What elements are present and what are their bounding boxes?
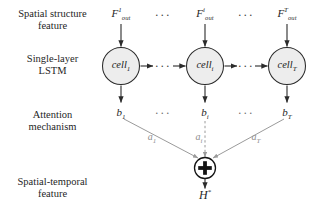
hidden-state-subscript: 1 [122, 113, 126, 121]
output-feature-h-star: H* [199, 188, 211, 202]
stage-label-line2: feature [0, 20, 105, 32]
hidden-state-subscript: T [288, 113, 292, 121]
cell-base: cell [112, 59, 127, 70]
attention-weight-a-1: a1 [148, 131, 157, 145]
ellipsis-top-left: ··· [155, 8, 172, 23]
output-base: H [199, 188, 208, 202]
attention-weight-a-T: aT [252, 131, 261, 145]
ellipsis-top-right: ··· [238, 8, 255, 23]
input-to-cell-arrows [121, 24, 287, 47]
cell-subscript: T [293, 65, 297, 73]
cell-base: cell [277, 59, 292, 70]
cell-base: cell [196, 59, 211, 70]
stage-label-line1: Spatial structure [0, 8, 105, 20]
stage-label-line1: Single-layer [0, 53, 105, 65]
input-feature-subscript: out [288, 14, 297, 21]
attention-weight-a-i: ai [196, 131, 203, 145]
lstm-cell-label-i: celli [196, 59, 213, 73]
stage-label-spatial-temporal-feature: Spatial-temporal feature [0, 176, 105, 201]
stage-label-spatial-structure-feature: Spatial structure feature [0, 8, 105, 33]
output-superscript: * [208, 188, 212, 196]
input-feature-base: F [112, 7, 119, 19]
stage-label-line2: mechanism [0, 121, 105, 133]
input-feature-subscript: out [205, 14, 214, 21]
input-feature-f-out-T: FTout [277, 6, 296, 22]
hidden-state-b-i: bi [201, 106, 208, 121]
sum-node-graphic [195, 158, 216, 179]
stage-label-line1: Spatial-temporal [0, 176, 105, 188]
stage-label-attention-mechanism: Attention mechanism [0, 109, 105, 134]
input-feature-base: F [196, 7, 203, 19]
stage-label-line1: Attention [0, 109, 105, 121]
input-feature-superscript: T [284, 6, 288, 14]
attention-weight-subscript: i [201, 137, 203, 145]
attention-weight-subscript: T [257, 137, 261, 145]
ellipsis-cell-left: ··· [155, 59, 172, 74]
input-feature-base: F [277, 7, 284, 19]
lstm-attention-diagram: Spatial structure feature Single-layer L… [0, 0, 318, 211]
input-feature-subscript: out [122, 14, 131, 21]
hidden-state-b-T: bT [282, 106, 291, 121]
stage-label-single-layer-lstm: Single-layer LSTM [0, 53, 105, 78]
hidden-state-subscript: i [207, 113, 209, 121]
stage-label-line2: feature [0, 188, 105, 200]
lstm-cell-label-T: cellT [277, 59, 296, 73]
ellipsis-hidden-right: ··· [238, 106, 255, 121]
input-feature-superscript: 1 [118, 6, 122, 14]
stage-label-line2: LSTM [0, 65, 105, 77]
input-feature-f-out-i: Fiout [196, 6, 213, 22]
input-feature-superscript: i [203, 6, 205, 14]
cell-subscript: i [212, 65, 214, 73]
hidden-state-b-1: b1 [117, 106, 126, 121]
cell-to-hidden-arrows [121, 86, 287, 103]
cell-subscript: 1 [127, 65, 131, 73]
lstm-cell-label-1: cell1 [112, 59, 131, 73]
ellipsis-hidden-left: ··· [155, 106, 172, 121]
ellipsis-cell-right: ··· [238, 59, 255, 74]
input-feature-f-out-1: F1out [112, 6, 131, 22]
attention-weight-subscript: 1 [153, 137, 157, 145]
